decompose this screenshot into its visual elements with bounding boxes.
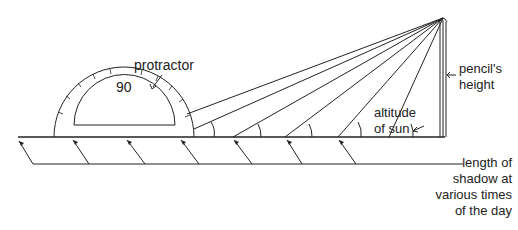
shadow-label-1: length of [370,155,512,170]
pencil-height-label-1: pencil's [459,61,502,76]
protractor-90-mark: 90 [116,80,132,95]
pencil-icon [439,18,456,137]
protractor-label: protractor [134,58,194,73]
shadow-label-3: various times [370,187,512,202]
protractor-icon [54,67,194,137]
shadow-label-2: shadow at [370,171,512,186]
altitude-label-1: altitude [374,105,416,120]
pencil-height-label-2: height [459,77,494,92]
altitude-label-2: of sun [374,121,409,136]
sun-altitude-diagram: protractor 90 pencil's height altitude o… [0,0,518,230]
shadow-label-4: of the day [370,203,512,218]
